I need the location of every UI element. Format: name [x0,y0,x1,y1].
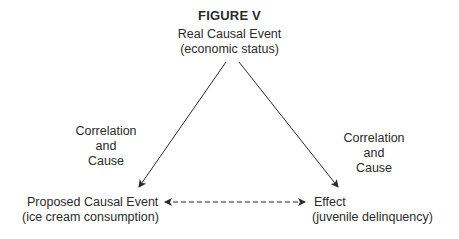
diagram-edges [0,0,459,239]
edge-top-to-left [139,62,226,187]
edge-top-to-right [239,62,338,187]
